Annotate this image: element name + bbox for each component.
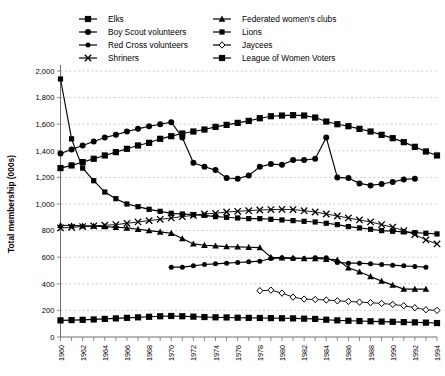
data-point-square: [423, 148, 429, 154]
data-point-circle: [179, 135, 185, 141]
series-line: [171, 258, 426, 267]
data-point-square-sm: [202, 213, 207, 218]
data-point-square-sm: [302, 219, 307, 224]
data-point-circle-sm: [213, 261, 218, 266]
data-point-square: [390, 319, 396, 325]
x-tick-label: 1982: [300, 345, 309, 361]
y-tick-label: 200: [42, 306, 55, 315]
data-point-square: [212, 124, 218, 130]
data-point-circle-sm: [246, 259, 251, 264]
x-tick-label: 1960: [57, 345, 66, 361]
y-tick-label: 1,000: [35, 200, 54, 209]
legend-item[interactable]: Lions: [213, 27, 262, 37]
legend-marker-square-icon: [85, 16, 91, 22]
data-point-circle: [113, 132, 119, 138]
data-point-square: [434, 320, 440, 326]
data-point-diamond: [390, 301, 396, 307]
legend-label: Jaycees: [242, 40, 272, 50]
data-point-circle-sm: [224, 261, 229, 266]
data-point-square: [190, 128, 196, 134]
data-point-square: [379, 132, 385, 138]
data-point-square: [135, 142, 141, 148]
data-point-square: [412, 144, 418, 150]
data-point-cross: [378, 221, 384, 227]
chart-legend: ElksBoy Scout volunteersRed Cross volunt…: [79, 14, 336, 63]
data-point-circle: [80, 142, 86, 148]
data-point-circle-sm: [357, 261, 362, 266]
x-tick-label: 1972: [189, 345, 198, 361]
data-point-square: [146, 140, 152, 146]
data-point-square: [268, 315, 274, 321]
data-point-circle: [279, 162, 285, 168]
data-point-circle-sm: [390, 263, 395, 268]
legend-item[interactable]: Elks: [79, 14, 124, 24]
data-point-square: [57, 317, 63, 323]
data-point-circle: [201, 164, 207, 170]
legend-marker-circle-sm-icon: [86, 43, 91, 48]
data-point-square: [257, 115, 263, 121]
data-point-square-sm: [91, 178, 96, 183]
legend-item[interactable]: Shriners: [79, 53, 139, 63]
data-point-triangle: [179, 235, 186, 241]
x-tick-label: 1976: [234, 345, 243, 361]
data-point-square-sm: [335, 222, 340, 227]
x-tick-label: 1978: [256, 345, 265, 361]
data-point-circle: [268, 161, 274, 167]
data-point-circle: [135, 126, 141, 132]
data-point-diamond: [401, 303, 407, 309]
data-point-circle: [412, 176, 418, 182]
data-point-circle-sm: [379, 262, 384, 267]
data-point-square: [190, 314, 196, 320]
data-point-square: [157, 313, 163, 319]
data-point-square: [434, 152, 440, 158]
data-point-circle-sm: [412, 264, 417, 269]
series-league-of-women-voters: [57, 313, 440, 326]
data-point-square: [168, 133, 174, 139]
data-point-square: [279, 315, 285, 321]
data-point-square-sm: [401, 229, 406, 234]
legend-label: Boy Scout volunteers: [108, 27, 186, 37]
data-point-circle: [368, 182, 374, 188]
y-axis-title: Total membership (000s): [6, 155, 16, 253]
data-point-square: [312, 316, 318, 322]
x-tick-label: 1970: [167, 345, 176, 361]
data-point-circle: [168, 119, 174, 125]
data-point-square: [57, 165, 63, 171]
data-point-square: [334, 121, 340, 127]
data-point-square-sm: [113, 196, 118, 201]
data-point-circle: [124, 129, 130, 135]
data-point-square-sm: [135, 204, 140, 209]
data-point-diamond: [290, 294, 296, 300]
data-point-square: [268, 113, 274, 119]
data-point-circle: [91, 138, 97, 144]
data-point-square-sm: [412, 230, 417, 235]
data-point-circle: [345, 175, 351, 181]
data-point-square: [157, 136, 163, 142]
data-point-circle-sm: [191, 263, 196, 268]
legend-item[interactable]: Boy Scout volunteers: [79, 27, 186, 37]
x-tick-label: 1994: [433, 345, 442, 361]
data-point-square: [179, 313, 185, 319]
data-point-square: [345, 123, 351, 129]
legend-marker-circle-icon: [85, 29, 91, 35]
data-point-circle: [102, 135, 108, 141]
data-point-cross: [423, 237, 429, 243]
data-point-circle: [356, 180, 362, 186]
data-point-square: [367, 318, 373, 324]
data-point-square-sm: [279, 217, 284, 222]
legend-item[interactable]: Red Cross volunteers: [79, 40, 188, 50]
data-point-square-sm: [313, 219, 318, 224]
x-tick-label: 1990: [389, 345, 398, 361]
legend-item[interactable]: Federated women's clubs: [213, 14, 336, 24]
data-point-square-sm: [169, 211, 174, 216]
legend-item[interactable]: League of Women Voters: [213, 53, 335, 63]
legend-item[interactable]: Jaycees: [213, 40, 272, 50]
x-tick-label: 1980: [278, 345, 287, 361]
data-point-circle: [224, 175, 230, 181]
data-point-square: [224, 122, 230, 128]
y-tick-label: 1,200: [35, 173, 54, 182]
data-point-square: [68, 317, 74, 323]
data-point-square: [102, 152, 108, 158]
data-point-square: [201, 314, 207, 320]
data-point-square-sm: [224, 215, 229, 220]
